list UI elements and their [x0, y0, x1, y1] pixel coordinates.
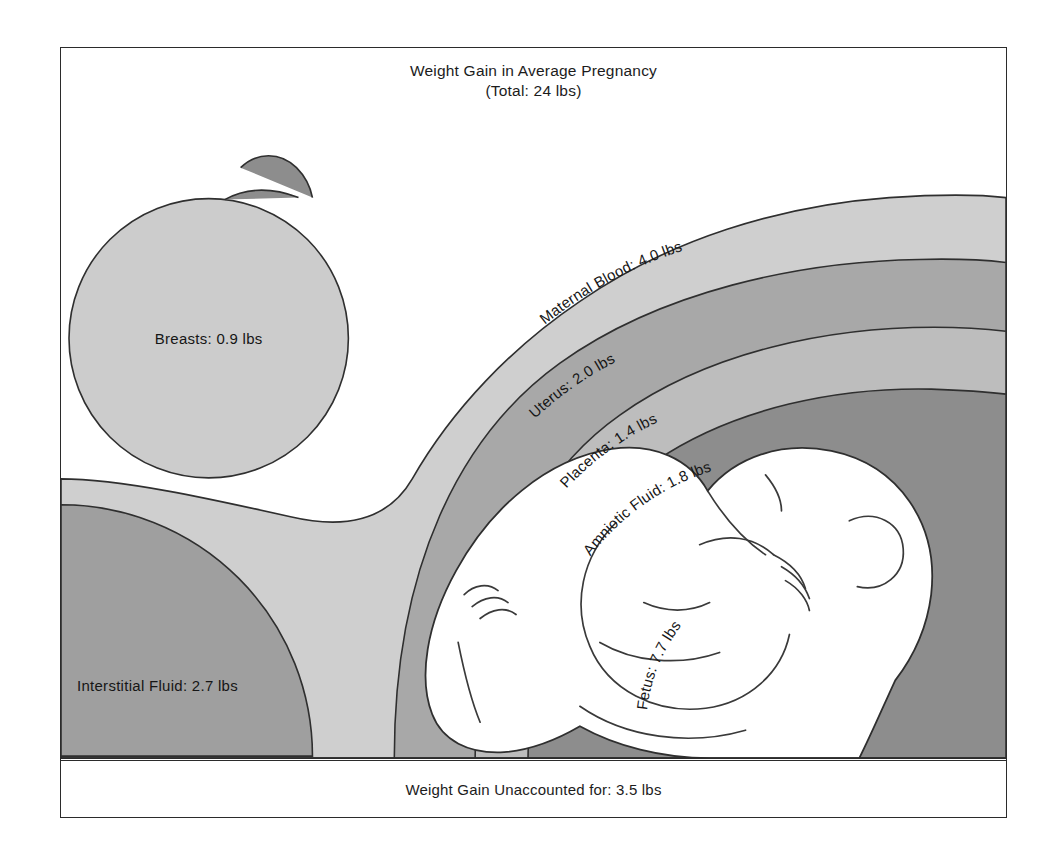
label-breasts: Breasts: 0.9 lbs	[155, 330, 263, 347]
figure-canvas: Weight Gain in Average Pregnancy (Total:…	[0, 0, 1058, 864]
figure-frame: Weight Gain in Average Pregnancy (Total:…	[60, 47, 1007, 818]
label-interstitial-fluid: Interstitial Fluid: 2.7 lbs	[77, 677, 238, 694]
region-breasts: Breasts: 0.9 lbs	[69, 156, 348, 478]
footer-unaccounted-bar: Weight Gain Unaccounted for: 3.5 lbs	[61, 760, 1006, 817]
nipple-base	[225, 190, 299, 199]
pregnancy-weight-diagram: Fetus: 7.7 lbs Breasts: 0.9 lbs Intersti…	[61, 48, 1006, 817]
footer-unaccounted-label: Weight Gain Unaccounted for: 3.5 lbs	[405, 781, 661, 798]
